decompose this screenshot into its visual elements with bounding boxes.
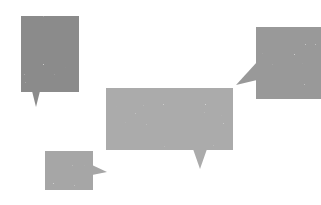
bubble-top-left <box>21 16 79 107</box>
bubble-center <box>106 88 233 169</box>
speech-bubble-body <box>21 16 79 92</box>
bubbles-layer <box>21 16 321 190</box>
speech-bubble-body <box>256 27 321 99</box>
speech-bubble-canvas <box>0 0 321 205</box>
speech-bubble-tail-down <box>193 149 207 169</box>
speech-bubble-tail-down <box>32 91 40 107</box>
speech-bubble-tail-right <box>92 165 107 175</box>
bubble-bottom-left <box>45 151 107 190</box>
bubble-top-right <box>236 27 321 99</box>
speech-bubble-tail-left <box>236 62 257 85</box>
speech-bubble-body <box>106 88 233 150</box>
speech-bubble-body <box>45 151 93 190</box>
